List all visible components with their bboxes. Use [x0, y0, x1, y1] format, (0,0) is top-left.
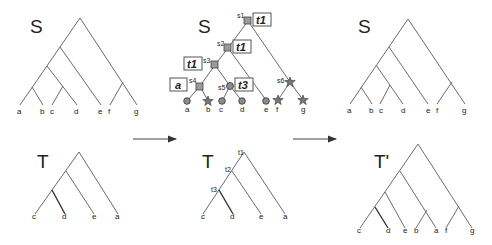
node-label-s6: s6: [277, 77, 285, 84]
mapping-box-s1: t1: [253, 13, 271, 26]
leaf-f: f: [276, 105, 279, 114]
node-label-t2: t2: [225, 166, 231, 173]
leaf-f: f: [445, 226, 448, 235]
leaf-g: g: [470, 226, 474, 235]
mapping-box-s2: t1: [233, 40, 251, 53]
leaf-e: e: [426, 106, 431, 115]
leaf-d: d: [230, 212, 234, 221]
circle-marker-s5: [227, 83, 234, 90]
leaf-d: d: [62, 212, 66, 221]
leaf-a: a: [434, 226, 439, 235]
leaf-e: e: [98, 107, 103, 116]
leaf-a: a: [185, 105, 190, 114]
leaf-labels: a b c d e f g: [185, 105, 305, 114]
gene-tree-left: T c d e a: [32, 151, 120, 221]
node-label-t1: t1: [238, 149, 244, 156]
leaf-e: e: [259, 212, 264, 221]
leaf-labels: a b c d e f g: [17, 107, 138, 116]
diagram-canvas: S a b c d e f g S s1: [0, 0, 492, 245]
leaf-b: b: [206, 105, 211, 114]
leaf-c: c: [201, 212, 205, 221]
square-marker-s3: [211, 61, 218, 68]
gene-tree-result: T' c d e b a f g: [357, 144, 474, 235]
node-label-s2: s2: [217, 40, 225, 47]
leaf-e: e: [92, 212, 97, 221]
mapping-box-s3: t1: [184, 57, 202, 70]
leaf-c: c: [357, 226, 361, 235]
tree-label-s: S: [198, 16, 211, 37]
node-label-s4: s4: [189, 77, 197, 84]
star-marker-g: [298, 95, 308, 105]
circle-marker-d: [239, 98, 246, 105]
leaf-c: c: [50, 107, 54, 116]
leaf-g: g: [134, 107, 138, 116]
leaf-g: g: [301, 105, 305, 114]
gene-tree-labeled: T t1 t2 t3 c d e a: [201, 149, 288, 221]
mapping-box-s4: a: [170, 78, 187, 91]
species-tree-mapped: S s1 s2 s3 s4 s5 s6 t1 t1 t1: [170, 12, 308, 114]
leaf-f: f: [108, 107, 111, 116]
svg-text:t1: t1: [187, 58, 197, 70]
square-marker-s4: [196, 83, 203, 90]
node-label-s1: s1: [237, 12, 245, 19]
tree-label-s: S: [30, 16, 43, 37]
leaf-c: c: [32, 212, 36, 221]
species-tree-right: S a b c d e f g: [347, 16, 466, 115]
leaf-d: d: [386, 226, 390, 235]
node-label-s3: s3: [203, 57, 211, 64]
star-marker-s6: [285, 77, 295, 87]
leaf-b: b: [369, 106, 374, 115]
square-marker-s1: [244, 17, 251, 24]
leaf-b: b: [40, 107, 45, 116]
square-marker-s2: [224, 44, 231, 51]
leaf-a: a: [283, 212, 288, 221]
species-tree-left: S a b c d e f g: [17, 16, 138, 116]
mapping-box-s5: t3: [235, 78, 253, 91]
node-label-s5: s5: [218, 84, 226, 91]
leaf-d: d: [240, 105, 244, 114]
leaf-b: b: [414, 226, 419, 235]
svg-text:t1: t1: [236, 41, 246, 53]
leaf-e: e: [264, 105, 269, 114]
circle-marker-c: [219, 98, 226, 105]
leaf-a: a: [115, 212, 120, 221]
tree-label-s: S: [358, 16, 371, 37]
leaf-d: d: [401, 106, 405, 115]
leaf-c: c: [219, 105, 223, 114]
tree-label-t: T: [202, 151, 214, 172]
star-marker-f: [273, 95, 283, 105]
leaf-labels: c d e b a f g: [357, 226, 474, 235]
svg-text:t1: t1: [256, 14, 266, 26]
leaf-labels: c d e a: [32, 212, 120, 221]
leaf-d: d: [74, 107, 78, 116]
circle-marker-e: [263, 98, 270, 105]
leaf-c: c: [379, 106, 383, 115]
leaf-labels: a b c d e f g: [347, 106, 466, 115]
svg-text:a: a: [175, 79, 181, 91]
tree-label-t: T: [37, 151, 49, 172]
svg-text:t3: t3: [238, 79, 248, 91]
leaf-a: a: [347, 106, 352, 115]
leaf-labels: c d e a: [201, 212, 288, 221]
leaf-g: g: [462, 106, 466, 115]
tree-label-t-prime: T': [374, 151, 389, 172]
leaf-f: f: [436, 106, 439, 115]
leaf-e: e: [403, 226, 408, 235]
node-label-t3: t3: [211, 186, 217, 193]
circle-marker-a: [184, 98, 191, 105]
leaf-a: a: [17, 107, 22, 116]
